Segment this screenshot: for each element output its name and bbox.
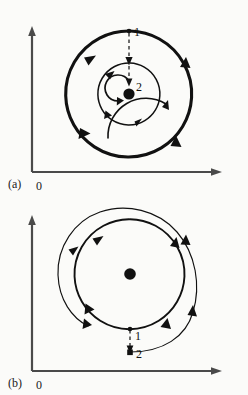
panel-label-b: (b) bbox=[8, 376, 22, 390]
fixed-point-b bbox=[124, 268, 136, 280]
spiral-arm-a bbox=[108, 98, 166, 138]
inner-spiral-arrowhead-a bbox=[117, 97, 124, 106]
y-axis-arrowhead-b bbox=[28, 215, 36, 225]
state-1-marker-b bbox=[128, 327, 133, 332]
outer-cycle-arrows-a bbox=[79, 56, 191, 148]
arrowhead bbox=[93, 236, 104, 246]
arrowhead bbox=[83, 319, 93, 330]
panel-b: (b) 0 bbox=[8, 208, 222, 392]
state-1-marker-a bbox=[127, 29, 132, 34]
arrowhead bbox=[181, 235, 191, 246]
point-label-2-a: 2 bbox=[136, 80, 142, 94]
outer-spiral-b bbox=[58, 208, 197, 352]
point-label-1-b: 1 bbox=[135, 329, 141, 343]
fixed-point-a bbox=[123, 88, 134, 99]
arrowhead bbox=[188, 305, 198, 317]
y-axis-arrowhead-a bbox=[28, 26, 36, 36]
point-label-1-a: 1 bbox=[134, 25, 140, 39]
x-axis-arrowhead-a bbox=[211, 168, 222, 176]
panel-a: (a) 0 bbox=[8, 25, 222, 193]
perturbation-arrowhead-lower-a bbox=[126, 79, 133, 87]
phase-portrait-figure: (a) 0 bbox=[0, 0, 248, 395]
origin-label-a: 0 bbox=[36, 179, 42, 193]
panel-label-a: (a) bbox=[8, 177, 21, 191]
panel-a-axes bbox=[28, 26, 222, 176]
point-label-2-b: 2 bbox=[136, 347, 142, 361]
x-axis-arrowhead-b bbox=[211, 367, 222, 375]
arrowhead bbox=[84, 56, 96, 66]
perturbation-arrowhead-upper-a bbox=[125, 57, 132, 66]
panel-b-axes bbox=[28, 215, 222, 375]
state-2-marker-b bbox=[127, 350, 133, 356]
origin-label-b: 0 bbox=[36, 378, 42, 392]
arrowhead bbox=[69, 247, 79, 256]
